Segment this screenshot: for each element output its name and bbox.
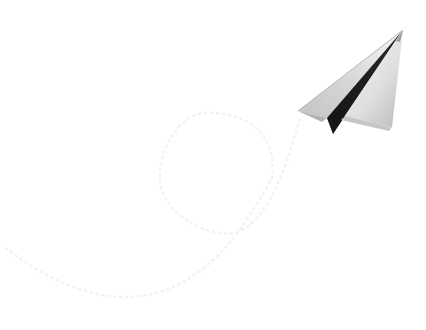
illustration-canvas: Paper Plane Paper airplane flying with a… — [0, 0, 426, 330]
paper-plane-illustration: Paper airplane flying with a dotted loop… — [0, 0, 426, 330]
canvas-background — [0, 0, 426, 330]
